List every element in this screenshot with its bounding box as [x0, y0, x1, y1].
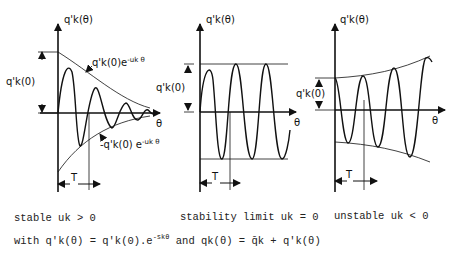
limit-amplitude-label: q'k(0) — [156, 82, 185, 93]
stable-x-axis-label: θ — [156, 118, 162, 129]
formula-line: with q'k(θ) = q'k(0).e-skθ and qk(θ) = q… — [14, 233, 321, 247]
unstable-y-axis-label: q'k(θ) — [340, 14, 369, 25]
unstable-caption: unstable uk < 0 — [334, 210, 429, 222]
lower-envelope — [335, 142, 430, 162]
limit-caption: stability limit uk = 0 — [180, 211, 319, 223]
stable-upper-envelope-label: q'k(0)e-uk θ — [92, 56, 145, 68]
limit-period-label: T — [212, 171, 218, 182]
unstable-x-axis-label: θ — [432, 115, 438, 126]
upper-envelope — [335, 56, 430, 78]
oscillation-curve — [335, 58, 432, 157]
stable-amplitude-label: q'k(0) — [6, 76, 35, 87]
limit-panel — [184, 24, 296, 192]
diagram-canvas — [0, 0, 458, 264]
oscillation-curve — [58, 68, 155, 146]
limit-x-axis-label: θ — [294, 117, 300, 128]
stable-period-label: T — [71, 172, 77, 183]
stable-y-axis-label: q'k(θ) — [64, 14, 93, 25]
unstable-period-label: T — [346, 169, 352, 180]
unstable-amplitude-label: q'k(0) — [296, 88, 325, 99]
unstable-panel — [315, 24, 445, 192]
limit-y-axis-label: q'k(θ) — [206, 14, 235, 25]
stable-panel — [38, 24, 160, 192]
stable-lower-envelope-label: -q'k(0) e-uk θ — [100, 138, 160, 150]
stable-caption: stable uk > 0 — [14, 212, 96, 224]
